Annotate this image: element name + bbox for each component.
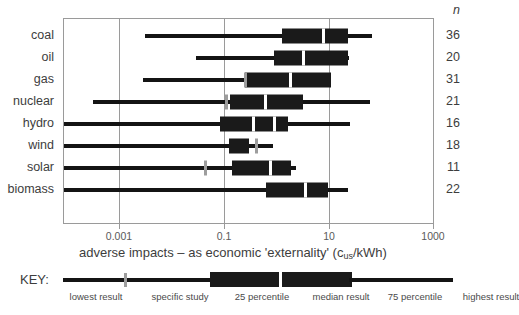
category-label-biomass: biomass: [0, 183, 54, 196]
xtick-1000: [433, 224, 434, 229]
specific-study-gas: [244, 73, 247, 88]
n-value-wind: 18: [434, 138, 460, 152]
box-biomass: [266, 183, 328, 198]
xtick-label-0.001: 0.001: [106, 230, 132, 242]
key-legend: lowest result specific study 25 percenti…: [63, 264, 453, 312]
xtick-label-1000: 1000: [421, 230, 444, 242]
category-label-gas: gas: [0, 73, 54, 86]
key-median: [279, 272, 282, 287]
n-value-nuclear: 21: [434, 94, 460, 108]
category-label-solar: solar: [0, 161, 54, 174]
median-hydro: [273, 117, 276, 132]
key-caption-highest: highest result: [463, 291, 519, 302]
key-caption-study: specific study: [151, 291, 208, 302]
median-coal: [322, 29, 325, 44]
xtick-label-10: 10: [323, 230, 335, 242]
box-solar: [232, 161, 291, 176]
median-solar: [269, 161, 272, 176]
n-value-coal: 36: [434, 28, 460, 42]
category-label-wind: wind: [0, 139, 54, 152]
x-axis-title: adverse impacts – as economic 'externali…: [0, 245, 466, 260]
box-oil: [274, 51, 348, 66]
xtick-0.1: [224, 224, 225, 229]
category-axis: coal oil gas nuclear hydro wind solar bi…: [0, 18, 58, 224]
n-column-header: n: [434, 3, 460, 17]
category-label-hydro: hydro: [0, 117, 54, 130]
x-axis-title-post: /kWh): [353, 245, 387, 260]
median-biomass: [304, 183, 307, 198]
median-oil: [302, 51, 305, 66]
box-divider-hydro: [252, 117, 255, 132]
xtick-0.001: [119, 224, 120, 229]
category-label-coal: coal: [0, 29, 54, 42]
key-caption-p25: 25 percentile: [235, 291, 289, 302]
box-gas: [245, 73, 331, 88]
boxplot-layer: [64, 19, 433, 223]
specific-study-wind: [255, 139, 258, 154]
key-label: KEY:: [20, 272, 49, 287]
n-value-oil: 20: [434, 50, 460, 64]
specific-study-nuclear: [225, 95, 228, 110]
xtick-10: [329, 224, 330, 229]
x-axis-title-pre: adverse impacts – as economic 'externali…: [79, 245, 343, 260]
whisker-hydro: [64, 122, 350, 126]
plot-area: [63, 18, 434, 224]
key-caption-p75: 75 percentile: [388, 291, 442, 302]
n-value-solar: 11: [434, 160, 460, 174]
median-nuclear: [264, 95, 267, 110]
n-column: n 36 20 31 21 16 18 11 22: [434, 0, 466, 224]
specific-study-solar: [204, 161, 207, 176]
box-wind: [229, 139, 249, 154]
category-label-oil: oil: [0, 51, 54, 64]
xtick-label-0.1: 0.1: [217, 230, 232, 242]
n-value-biomass: 22: [434, 182, 460, 196]
key-caption-median: median result: [312, 291, 369, 302]
median-gas: [289, 73, 292, 88]
key-whisker-right: [349, 278, 453, 282]
key-specific-study: [124, 273, 127, 287]
n-value-hydro: 16: [434, 116, 460, 130]
key-caption-lowest: lowest result: [70, 291, 123, 302]
box-coal: [282, 29, 348, 44]
n-value-gas: 31: [434, 72, 460, 86]
x-axis-title-sub: us: [343, 251, 353, 261]
category-label-nuclear: nuclear: [0, 95, 54, 108]
